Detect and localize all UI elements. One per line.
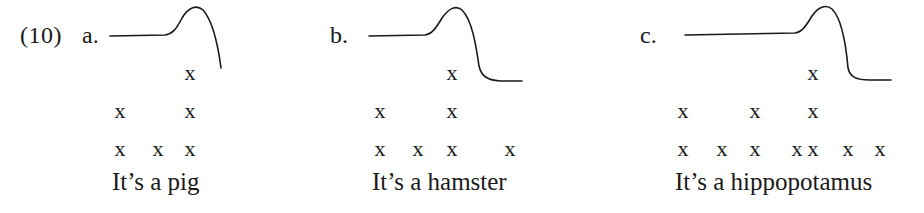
grid-mark-a-row-mid: x (185, 100, 196, 122)
grid-mark-c-row-base: x (678, 138, 689, 160)
intonation-contour-b (369, 8, 522, 81)
grid-mark-c-row-base: x (792, 138, 803, 160)
grid-mark-a-row-top: x (185, 62, 196, 84)
grid-mark-c-row-base: x (717, 138, 728, 160)
grid-mark-c-row-mid: x (678, 100, 689, 122)
grid-mark-b-row-base: x (375, 138, 386, 160)
grid-mark-c-row-base: x (750, 138, 761, 160)
grid-mark-c-row-mid: x (750, 100, 761, 122)
grid-mark-b-row-base: x (447, 138, 458, 160)
grid-mark-b-row-mid: x (447, 100, 458, 122)
intonation-contour-a (110, 7, 221, 68)
grid-mark-c-row-top: x (808, 62, 819, 84)
panel-label-c: c. (640, 22, 657, 49)
grid-mark-a-row-base: x (153, 138, 164, 160)
intonation-contour-c (685, 7, 891, 80)
example-sentence-a: It’s a pig (112, 168, 200, 196)
example-sentence-b: It’s a hamster (372, 168, 507, 196)
grid-mark-c-row-base: x (875, 138, 886, 160)
grid-mark-c-row-base: x (808, 138, 819, 160)
panel-label-a: a. (82, 22, 99, 49)
grid-mark-a-row-base: x (115, 138, 126, 160)
panel-label-b: b. (330, 22, 348, 49)
grid-mark-a-row-base: x (185, 138, 196, 160)
example-sentence-c: It’s a hippopotamus (675, 168, 872, 196)
grid-mark-b-row-base: x (505, 138, 516, 160)
grid-mark-c-row-mid: x (808, 100, 819, 122)
grid-mark-c-row-base: x (843, 138, 854, 160)
grid-mark-b-row-base: x (413, 138, 424, 160)
grid-mark-b-row-top: x (447, 62, 458, 84)
grid-mark-b-row-mid: x (375, 100, 386, 122)
grid-mark-a-row-mid: x (115, 100, 126, 122)
